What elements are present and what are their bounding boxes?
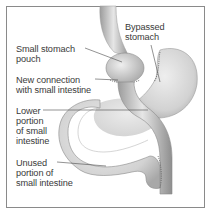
stomach-pouch (106, 53, 144, 83)
label-new-connection: New connection with small intestine (16, 75, 91, 95)
label-lower-portion: Lower portion of small intestine (16, 106, 49, 146)
label-bypassed-stomach: Bypassed stomach (125, 22, 165, 42)
label-unused-portion: Unused portion of small intestine (16, 158, 73, 188)
label-small-stomach-pouch: Small stomach pouch (16, 44, 75, 64)
